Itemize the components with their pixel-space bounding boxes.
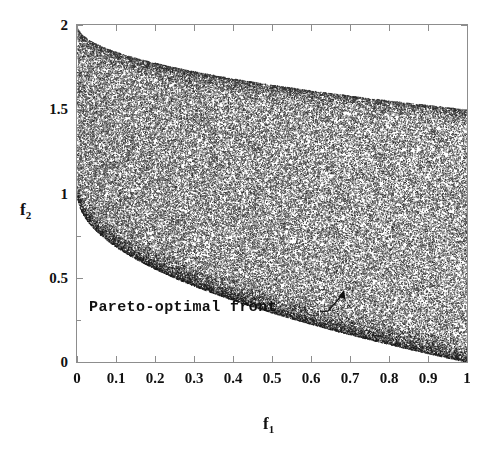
- pareto-front-annotation-label: Pareto-optimal front: [89, 300, 277, 315]
- y-axis-minor-tick: [77, 67, 81, 68]
- x-axis-tick-top: [233, 25, 234, 31]
- x-axis-tick-label: 0.2: [146, 371, 165, 386]
- y-axis-tick-right: [461, 278, 467, 279]
- x-axis-tick-label: 0.7: [341, 371, 360, 386]
- y-axis-tick-label: 0.5: [30, 270, 68, 285]
- y-axis-title-sub: 2: [26, 209, 32, 221]
- x-axis-title: f1: [263, 415, 274, 435]
- x-axis-tick-label: 0.9: [419, 371, 438, 386]
- x-axis-tick-top: [350, 25, 351, 31]
- y-axis-minor-tick: [77, 236, 81, 237]
- x-axis-tick-label: 0.8: [380, 371, 399, 386]
- y-axis-tick-right: [461, 362, 467, 363]
- x-axis-tick-label: 0: [73, 371, 81, 386]
- x-axis-tick: [194, 356, 195, 362]
- y-axis-minor-tick: [77, 320, 81, 321]
- figure-scatter-plot: 00.10.20.30.40.50.60.70.80.9100.511.52 f…: [0, 0, 494, 458]
- x-axis-tick: [350, 356, 351, 362]
- x-axis-tick-top: [389, 25, 390, 31]
- x-axis-tick: [311, 356, 312, 362]
- x-axis-tick-label: 0.3: [185, 371, 204, 386]
- x-axis-tick: [389, 356, 390, 362]
- y-axis-tick-label: 0: [30, 355, 68, 370]
- x-axis-tick-top: [467, 25, 468, 31]
- x-axis-tick: [116, 356, 117, 362]
- x-axis-title-sub: 1: [269, 423, 275, 435]
- x-axis-tick: [272, 356, 273, 362]
- x-axis-tick-top: [428, 25, 429, 31]
- x-axis-tick-top: [116, 25, 117, 31]
- y-axis-tick-label: 1: [30, 186, 68, 201]
- x-axis-tick: [428, 356, 429, 362]
- x-axis-tick-label: 0.1: [107, 371, 126, 386]
- x-axis-tick-label: 0.5: [263, 371, 282, 386]
- y-axis-tick-label: 2: [30, 18, 68, 33]
- x-axis-tick-top: [272, 25, 273, 31]
- x-axis-tick: [155, 356, 156, 362]
- y-axis-tick-label: 1.5: [30, 102, 68, 117]
- y-axis-tick: [77, 278, 83, 279]
- y-axis-title: f2: [20, 201, 31, 221]
- x-axis-tick-label: 1: [463, 371, 471, 386]
- y-axis-tick: [77, 25, 83, 26]
- pareto-front-leader-arrow: [300, 278, 360, 324]
- y-axis-tick: [77, 109, 83, 110]
- x-axis-tick: [233, 356, 234, 362]
- x-axis-tick-top: [155, 25, 156, 31]
- y-axis-tick-right: [461, 109, 467, 110]
- x-axis-tick-top: [194, 25, 195, 31]
- x-axis-tick: [467, 356, 468, 362]
- y-axis-tick-right: [461, 25, 467, 26]
- y-axis-tick: [77, 194, 83, 195]
- y-axis-tick-right: [461, 194, 467, 195]
- y-axis-tick: [77, 362, 83, 363]
- x-axis-tick-top: [311, 25, 312, 31]
- y-axis-minor-tick: [77, 151, 81, 152]
- x-axis-tick-label: 0.6: [302, 371, 321, 386]
- x-axis-tick-label: 0.4: [224, 371, 243, 386]
